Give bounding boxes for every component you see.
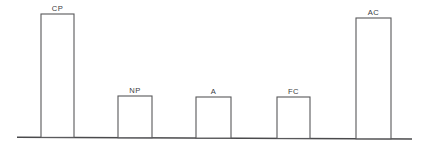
bar-np [118,96,152,138]
bar-a [196,97,231,138]
egogram-bar-chart: CP NP A FC AC [0,0,428,151]
bar-label-ac: AC [368,8,379,17]
bar-ac [356,18,391,139]
bar-label-a: A [211,87,217,96]
bar-cp [41,14,74,137]
bar-label-np: NP [129,86,140,95]
chart-canvas: CP NP A FC AC [0,0,428,151]
bar-group-fc: FC [277,87,310,139]
bar-group-cp: CP [41,4,74,138]
bar-label-cp: CP [52,4,63,13]
bar-label-fc: FC [288,87,299,96]
bar-group-ac: AC [356,8,391,139]
bar-group-np: NP [118,86,152,138]
bar-group-a: A [196,87,231,139]
bar-fc [277,97,310,138]
